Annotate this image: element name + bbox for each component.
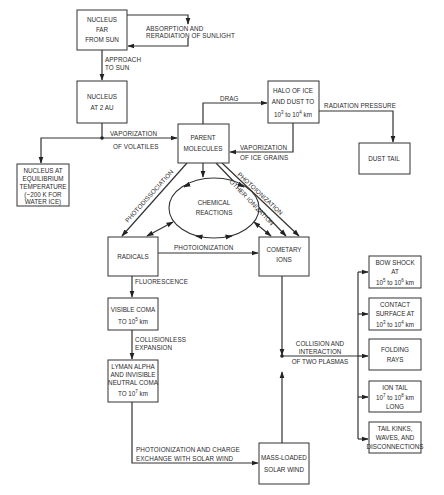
edge-label-approach: APPROACH [105,56,141,63]
node-label-line: DUST TAIL [368,155,400,162]
node-nucleus-equilibrium: NUCLEUS AT EQUILIBRIUM TEMPERATURE (~200… [17,164,69,206]
node-label-line: WAVES, AND [376,434,415,441]
node-tail-kinks: TAIL KINKS, WAVES, AND DISCONNECTIONS [366,422,423,453]
node-label-line: FAR [96,26,109,33]
edge-label-charge-exchange: EXCHANGE WITH SOLAR WIND [136,455,234,462]
edge-absorption-out [127,15,188,24]
node-ion-tail: ION TAIL 107 to 108 km LONG [369,381,421,412]
node-label-line: WATER ICE) [25,198,61,206]
edge-label-radiation-pressure: RADIATION PRESSURE [324,102,396,109]
node-nucleus-far: NUCLEUS FAR FROM SUN [77,10,127,50]
node-cometary-ions: COMETARY IONS [259,237,309,276]
edge-label-collision: OF TWO PLASMAS [292,358,349,365]
node-label-line: REACTIONS [196,209,233,216]
node-parent-molecules: PARENT MOLECULES [178,124,229,163]
node-contact-surface: CONTACT SURFACE AT 103 to 104 km [369,298,421,330]
edge-label-collisionless: COLLISIONLESS [135,336,186,343]
node-range: TO 107 km [118,389,148,397]
node-label-line: RADICALS [117,253,149,260]
node-label-line: CONTACT [380,301,410,308]
node-bow-shock: BOW SHOCK AT 105 to 106 km [369,256,421,288]
node-label-line: SURFACE AT [376,310,415,317]
node-label-line: BOW SHOCK [375,259,415,266]
node-label-line: NUCLEUS [87,16,117,23]
node-mass-loaded-solar-wind: MASS-LOADED SOLAR WIND [259,443,309,484]
comet-process-diagram: CHEMICAL REACTIONS NUCLEUS FAR FROM SUN … [0,0,444,495]
node-dust-tail: DUST TAIL [359,143,410,174]
node-label-line: SOLAR WIND [264,466,304,473]
edge-label-drag: DRAG [220,95,239,102]
edge-label-charge-exchange: PHOTOIONIZATION AND CHARGE [136,446,240,453]
node-label-line: AND DUST TO [272,98,314,105]
node-lyman-alpha: LYMAN ALPHA AND INVISIBLE NEUTRAL COMA T… [108,360,159,402]
node-halo: HALO OF ICE AND DUST TO 103 to 104 km [268,81,319,123]
node-range: 105 to 106 km [376,278,414,286]
edge-to-nucleus-equilibrium [41,138,102,163]
node-label-line: PARENT [190,134,215,141]
edge-label-vaporization-volatiles: VAPORIZATION [110,130,157,137]
node-label-line: CHEMICAL [198,199,231,206]
edge-drag [203,103,267,124]
edge-label-collision: COLLISION AND [296,340,345,347]
node-label-line: MASS-LOADED [261,454,307,461]
junction-dot [100,136,104,140]
node-nucleus-2au: NUCLEUS AT 2 AU [77,81,127,123]
edge-label-absorption: ABSORPTION AND [146,25,204,32]
node-chemical-reactions: CHEMICAL REACTIONS [169,178,259,238]
node-folding-rays: FOLDING RAYS [369,339,421,370]
node-label-line: AT [391,268,399,275]
node-label-line: AND INVISIBLE [110,371,155,378]
node-label-line: TAIL KINKS, [378,425,413,432]
node-range: TO 105 km [118,317,148,325]
node-label-line: LONG [386,403,404,410]
edge-absorption-back [128,38,188,46]
edge-label-photoionization: PHOTOIONIZATION [174,244,234,251]
node-label-line: HALO OF ICE [273,87,313,94]
edge-label-collisionless: EXPANSION [135,344,173,351]
node-range: 107 to 108 km [376,393,414,401]
edge-label-approach: TO SUN [105,64,130,71]
node-label-line: AT 2 AU [91,104,114,111]
node-label-line: DISCONNECTIONS [366,443,423,450]
edge-label-collision: INTERACTION [299,348,342,355]
node-label-line: LYMAN ALPHA [111,363,155,370]
node-range: 103 to 104 km [376,320,414,328]
node-label-line: EQUILIBRIUM [23,175,64,183]
edge-label-photodissociation: PHOTODISSOCIATION [124,168,175,224]
node-visible-coma: VISIBLE COMA TO 105 km [108,298,158,330]
node-label-line: NUCLEUS AT [23,167,62,174]
edge-label-absorption: RERADIATION OF SUNLIGHT [146,32,235,39]
node-label-line: ION TAIL [382,384,408,391]
node-label-line: TEMPERATURE [19,183,66,190]
node-range: 103 to 104 km [274,110,312,118]
edge-charge-exchange [132,402,258,463]
node-label-line: FROM SUN [85,36,119,43]
edge-label-fluorescence: FLUORESCENCE [135,278,188,285]
node-label-line: VISIBLE COMA [111,306,156,313]
node-label-line: COMETARY [266,246,302,253]
edge-label-vaporization-volatiles: OF VOLATILES [113,143,159,150]
node-label-line: MOLECULES [184,145,223,152]
node-label-line: IONS [276,256,291,263]
node-radicals: RADICALS [108,237,158,276]
node-label-line: RAYS [387,356,404,363]
node-label-line: FOLDING [381,346,409,353]
edge-chemical-radicals [147,222,173,236]
node-label-line: NEUTRAL COMA [108,379,159,386]
edge-label-vaporization-ice: VAPORIZATION [240,144,287,151]
edge-label-vaporization-ice: OF ICE GRAINS [240,154,288,161]
edge-radiation-pressure [319,111,393,142]
node-label-line: NUCLEUS [87,93,117,100]
